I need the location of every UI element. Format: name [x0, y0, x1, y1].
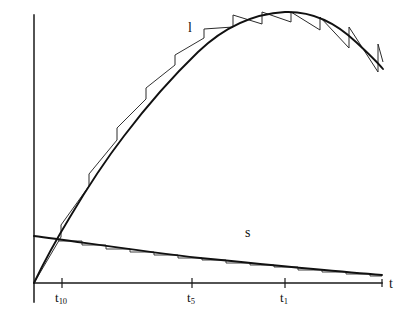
tick-label-t1: t1: [280, 291, 288, 304]
tick-label-t10-sub: 10: [59, 296, 67, 306]
curve-label-l: l: [188, 21, 192, 35]
tick-label-t1-sub: 1: [284, 296, 288, 306]
curve-label-s: s: [245, 226, 250, 240]
figure-canvas: l s t t10 t5 t1: [0, 0, 405, 320]
tick-label-t5: t5: [187, 291, 195, 304]
tick-label-t5-sub: 5: [191, 296, 195, 306]
x-axis-label: t: [389, 277, 393, 291]
curve-s-smooth: [34, 236, 382, 275]
plot-svg: [0, 0, 405, 320]
tick-label-t10: t10: [55, 291, 67, 304]
